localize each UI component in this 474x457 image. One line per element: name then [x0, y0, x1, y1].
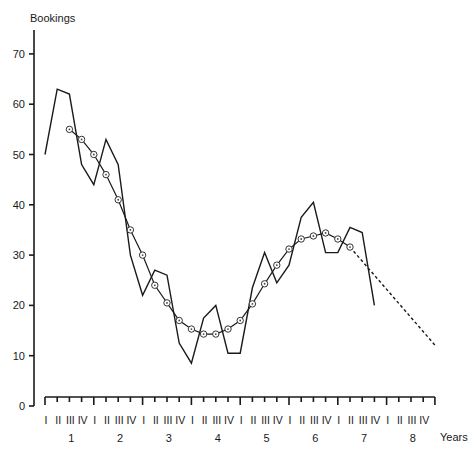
quarter-label: IV	[419, 414, 429, 426]
x-axis-title: Years	[440, 431, 468, 443]
y-tick-label: 60	[13, 98, 25, 110]
marker-center-dot	[215, 333, 217, 335]
moving-average-line	[69, 129, 350, 334]
year-label: 8	[410, 432, 416, 444]
y-tick-label: 10	[13, 350, 25, 362]
marker-center-dot	[166, 302, 168, 304]
marker-center-dot	[142, 254, 144, 256]
quarter-label: III	[164, 414, 173, 426]
marker-center-dot	[252, 303, 254, 305]
quarter-label: IV	[322, 414, 332, 426]
marker-center-dot	[300, 238, 302, 240]
marker-center-dot	[239, 320, 241, 322]
y-tick-label: 40	[13, 199, 25, 211]
year-label: 5	[263, 432, 269, 444]
quarter-label: III	[310, 414, 319, 426]
quarter-label: I	[191, 414, 194, 426]
bookings-chart: Bookings 010203040506070 IIIIIIIVIIIIIII…	[0, 0, 474, 457]
quarter-label: IV	[273, 414, 283, 426]
quarter-label: III	[66, 414, 75, 426]
quarter-label: III	[115, 414, 124, 426]
marker-center-dot	[117, 199, 119, 201]
marker-center-dot	[325, 232, 327, 234]
marker-center-dot	[191, 328, 193, 330]
quarter-label: I	[142, 414, 145, 426]
y-axis-title: Bookings	[30, 12, 76, 24]
trend-projection-line	[350, 247, 435, 346]
y-axis: 010203040506070	[13, 30, 34, 412]
year-label: 6	[312, 432, 318, 444]
quarter-label: II	[153, 414, 159, 426]
plot-area	[45, 89, 435, 363]
marker-center-dot	[178, 320, 180, 322]
quarter-label: II	[397, 414, 403, 426]
x-axis: IIIIIIIVIIIIIIIVIIIIIIIVIIIIIIIVIIIIIIIV…	[45, 397, 435, 444]
marker-center-dot	[93, 154, 95, 156]
y-tick-label: 20	[13, 299, 25, 311]
quarter-label: I	[45, 414, 48, 426]
y-tick-label: 30	[13, 249, 25, 261]
quarter-label: I	[386, 414, 389, 426]
y-tick-label: 0	[19, 400, 25, 412]
marker-center-dot	[337, 238, 339, 240]
year-label: 2	[117, 432, 123, 444]
marker-center-dot	[69, 128, 71, 130]
quarter-label: III	[359, 414, 368, 426]
quarter-label: II	[348, 414, 354, 426]
year-label: 7	[361, 432, 367, 444]
quarter-label: I	[289, 414, 292, 426]
marker-center-dot	[288, 248, 290, 250]
marker-center-dot	[81, 139, 83, 141]
marker-center-dot	[227, 328, 229, 330]
year-label: 4	[215, 432, 221, 444]
quarter-label: III	[408, 414, 417, 426]
marker-center-dot	[313, 235, 315, 237]
quarter-label: IV	[370, 414, 380, 426]
marker-center-dot	[349, 246, 351, 248]
y-tick-label: 70	[13, 48, 25, 60]
marker-center-dot	[130, 229, 132, 231]
marker-center-dot	[203, 333, 205, 335]
quarter-label: II	[202, 414, 208, 426]
quarter-label: III	[212, 414, 221, 426]
quarter-label: I	[240, 414, 243, 426]
quarter-label: IV	[126, 414, 136, 426]
quarter-label: I	[93, 414, 96, 426]
marker-center-dot	[105, 174, 107, 176]
quarter-label: II	[299, 414, 305, 426]
quarter-label: II	[55, 414, 61, 426]
year-label: 1	[68, 432, 74, 444]
quarter-label: IV	[224, 414, 234, 426]
quarter-label: II	[104, 414, 110, 426]
quarter-label: III	[261, 414, 270, 426]
raw-bookings-line	[45, 89, 374, 363]
marker-center-dot	[154, 284, 156, 286]
year-label: 3	[166, 432, 172, 444]
marker-center-dot	[276, 264, 278, 266]
y-tick-label: 50	[13, 149, 25, 161]
quarter-label: II	[250, 414, 256, 426]
quarter-label: I	[337, 414, 340, 426]
marker-center-dot	[264, 283, 266, 285]
quarter-label: IV	[175, 414, 185, 426]
quarter-label: IV	[78, 414, 88, 426]
